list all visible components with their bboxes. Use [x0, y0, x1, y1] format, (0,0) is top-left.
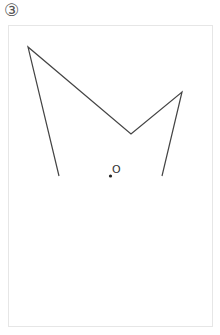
center-point-label: O	[112, 163, 121, 176]
polyline-shape	[28, 47, 182, 176]
geometry-figure: O	[0, 0, 220, 335]
